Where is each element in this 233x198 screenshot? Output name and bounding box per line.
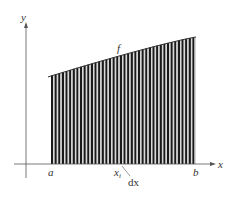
tick-label-b: b <box>193 166 199 178</box>
dx-leader-line <box>122 166 130 176</box>
strip <box>116 56 118 164</box>
strip <box>55 74 57 164</box>
strip <box>131 52 133 164</box>
dx-annotation: dx <box>128 176 140 188</box>
strip <box>171 42 173 164</box>
strip <box>51 75 53 164</box>
strip <box>87 65 89 164</box>
strip <box>69 70 71 164</box>
strip <box>109 58 111 164</box>
x-axis-label: x <box>217 158 223 170</box>
strip <box>145 48 147 164</box>
strip <box>153 47 155 164</box>
strip <box>160 45 162 164</box>
strip <box>178 40 180 164</box>
x-axis-arrow-icon <box>210 162 216 166</box>
strip <box>95 62 97 164</box>
strip <box>66 71 68 164</box>
strip <box>76 68 78 164</box>
strip <box>138 50 140 164</box>
strip <box>73 69 75 164</box>
strip <box>192 37 194 164</box>
strip <box>113 57 115 164</box>
strip <box>174 41 176 164</box>
strip <box>80 67 82 164</box>
integral-diagram: y x f a b xi dx <box>0 0 233 198</box>
strip <box>185 39 187 164</box>
strip <box>91 64 93 164</box>
strip <box>149 47 151 164</box>
strip <box>98 61 100 164</box>
strip <box>163 44 165 164</box>
strip <box>127 53 129 164</box>
strip <box>142 49 144 164</box>
strip <box>167 43 169 164</box>
tick-label-a: a <box>48 166 54 178</box>
strip <box>124 54 126 164</box>
strip <box>84 66 86 164</box>
area-strips <box>51 30 196 164</box>
curve-label-f: f <box>117 42 122 54</box>
strip <box>105 59 107 164</box>
strip <box>58 73 60 164</box>
y-axis-label: y <box>20 11 26 23</box>
strip <box>102 60 104 164</box>
strip <box>120 55 122 164</box>
strip <box>182 40 184 164</box>
strip <box>189 38 191 164</box>
strip <box>134 51 136 164</box>
tick-label-xi: xi <box>113 166 121 180</box>
strip <box>62 72 64 164</box>
strip <box>156 46 158 164</box>
